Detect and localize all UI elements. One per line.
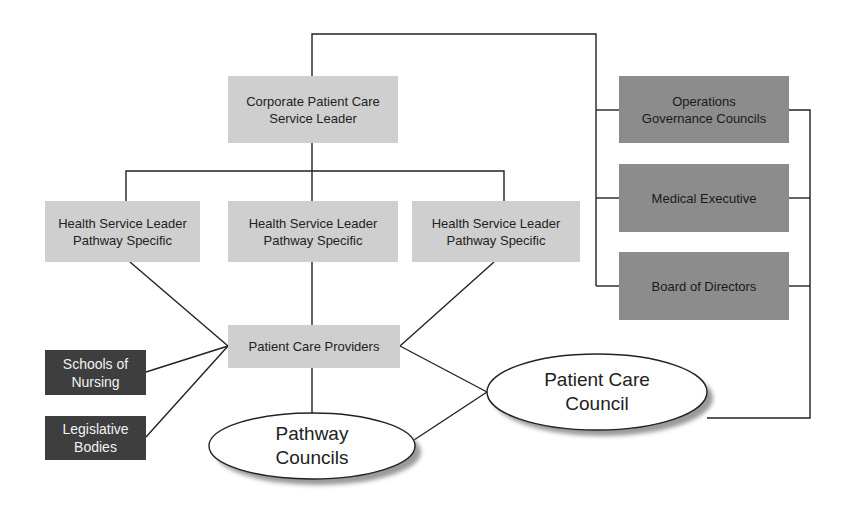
schools-of-nursing-node: Schools of Nursing — [45, 350, 146, 395]
board-of-directors-node: Board of Directors — [619, 252, 789, 320]
health-service-leader-node-1: Health Service Leader Pathway Specific — [45, 201, 200, 262]
patient-care-council-label: Patient Care Council — [490, 356, 704, 428]
operations-governance-councils-node: Operations Governance Councils — [619, 76, 789, 143]
pathway-councils-label: Pathway Councils — [212, 414, 412, 478]
patient-care-providers-node: Patient Care Providers — [228, 325, 400, 368]
health-service-leader-node-2: Health Service Leader Pathway Specific — [228, 201, 398, 262]
corporate-patient-care-leader-node: Corporate Patient Care Service Leader — [228, 76, 398, 143]
legislative-bodies-node: Legislative Bodies — [45, 416, 146, 460]
corporate-to-health-leaders-connector — [126, 171, 504, 201]
medical-executive-node: Medical Executive — [619, 164, 789, 232]
health-service-leader-node-3: Health Service Leader Pathway Specific — [412, 201, 580, 262]
